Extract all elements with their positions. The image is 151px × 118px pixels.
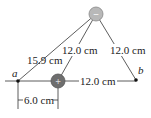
dist-a-negative: 15.9 cm [27,54,63,66]
dist-b-negative: 12.0 cm [110,44,146,56]
negative-sign: − [93,9,99,20]
dist-a-positive: 6.0 cm [24,94,54,106]
point-a-dot [16,79,20,83]
dist-positive-b: 12.0 cm [80,75,116,87]
dist-positive-negative: 12.0 cm [62,44,98,56]
charge-diagram: − + a b 15.9 cm 12.0 cm 12.0 cm 12.0 cm … [0,0,151,118]
positive-sign: + [55,76,61,87]
point-b-dot [134,78,138,82]
point-a-label: a [12,67,18,79]
point-b-label: b [138,64,144,76]
